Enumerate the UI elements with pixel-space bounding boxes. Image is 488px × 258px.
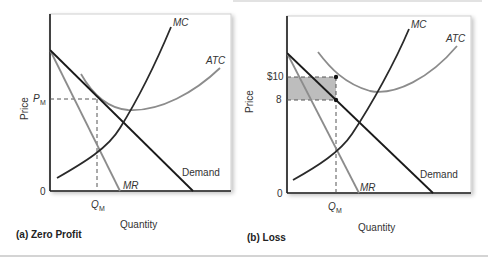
- svg-text:Q: Q: [91, 199, 99, 210]
- panel-b-caption: (b) Loss: [247, 232, 286, 243]
- panel-a-caption: (a) Zero Profit: [16, 229, 82, 240]
- panel-a-frame: [50, 14, 231, 191]
- panel-a-demand-label: Demand: [182, 167, 220, 178]
- panel-b-mr-label: MR: [360, 182, 376, 193]
- panel-a-atc-label: ATC: [205, 55, 226, 66]
- svg-text:P: P: [33, 93, 40, 104]
- panel-a-mr-label: MR: [123, 180, 139, 191]
- panel-b-atc-label: ATC: [445, 33, 466, 44]
- svg-text:M: M: [336, 207, 342, 214]
- panel-a-zero-profit: MC ATC Demand MR 0 P M Q M Price Quantit…: [16, 14, 231, 240]
- panel-b-loss-area: [287, 77, 336, 100]
- panel-a-qm-tick-label: Q M: [91, 199, 105, 212]
- panel-b-mc-label: MC: [411, 19, 427, 30]
- panel-b-qm-tick-label: Q M: [328, 201, 342, 214]
- svg-text:Q: Q: [328, 201, 336, 212]
- panel-a-y-axis-title: Price: [19, 97, 30, 120]
- panel-b-demand-point: [334, 98, 338, 102]
- svg-text:M: M: [40, 99, 46, 106]
- panel-a-pm-tick-label: P M: [33, 93, 46, 106]
- panel-a-origin-label: 0: [40, 186, 46, 197]
- panel-b-demand-label: Demand: [420, 169, 458, 180]
- panel-b-origin-label: 0: [277, 188, 283, 199]
- panel-b-x-axis-title: Quantity: [358, 222, 395, 233]
- panel-a-mc-label: MC: [173, 17, 189, 28]
- panel-b-loss: MC ATC Demand MR 0 $10 8 Q M Price Quant…: [244, 16, 471, 243]
- panel-b-y-axis-title: Price: [244, 90, 255, 113]
- panel-b-10-tick-label: $10: [267, 71, 284, 82]
- panel-a-x-axis-title: Quantity: [120, 219, 157, 230]
- panel-b-atc-point: [334, 75, 338, 79]
- panel-b-8-tick-label: 8: [276, 94, 282, 105]
- svg-text:M: M: [99, 205, 105, 212]
- figure: MC ATC Demand MR 0 P M Q M Price Quantit…: [0, 0, 488, 258]
